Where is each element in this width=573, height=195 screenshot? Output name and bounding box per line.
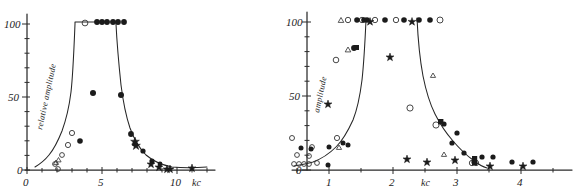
right-ytick-100: 100 [286, 16, 303, 28]
figure-canvas: 100 50 0 0 5 10 kc relative amplitude [0, 0, 573, 195]
right-star-series [324, 18, 527, 170]
right-plot-svg: 100 50 0 1 2 3 4 kc amplitude [286, 0, 573, 195]
left-ytick-50: 50 [8, 91, 20, 103]
right-filled-circle-series [299, 17, 536, 167]
chart-panel-right: 100 50 0 1 2 3 4 kc amplitude [286, 0, 573, 195]
left-x-unit-label: kc [192, 177, 201, 188]
right-xtick-3: 3 [452, 176, 459, 188]
right-ytick-50: 50 [289, 90, 301, 102]
left-xtick-0: 0 [23, 176, 29, 188]
right-xtick-4: 4 [517, 176, 523, 188]
chart-panel-left: 100 50 0 0 5 10 kc relative amplitude [0, 0, 287, 195]
right-xtick-2: 2 [389, 176, 395, 188]
right-x-unit-label: kc [421, 177, 430, 188]
right-triangle-series [336, 18, 446, 157]
right-axes [292, 12, 572, 170]
left-xtick-5: 5 [98, 176, 104, 188]
left-plot-svg: 100 50 0 0 5 10 kc relative amplitude [0, 0, 287, 195]
left-xtick-10: 10 [170, 176, 182, 188]
left-axes [25, 14, 215, 170]
right-curve-left-branch [294, 20, 366, 166]
left-ytick-0: 0 [17, 164, 23, 176]
left-y-ticks [22, 24, 30, 170]
left-y-axis-title: relative amplitude [34, 63, 58, 131]
right-y-axis-title: amplitude [311, 75, 328, 113]
left-ytick-100: 100 [4, 18, 21, 30]
left-filled-circle-series [77, 19, 162, 166]
right-xtick-1: 1 [326, 176, 332, 188]
